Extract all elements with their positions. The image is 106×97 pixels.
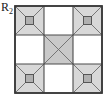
cell-middle-left-fill: [15, 35, 44, 64]
grid-diagram-svg: [0, 0, 106, 97]
cell-top-left-center-square: [26, 17, 34, 25]
cell-middle-right-fill: [73, 35, 102, 64]
cell-bottom-left-center-square: [26, 75, 34, 83]
figure-container: R2: [0, 0, 106, 97]
cell-bottom-center-fill: [44, 64, 73, 93]
cell-top-center-fill: [44, 6, 73, 35]
cell-top-right-center-square: [84, 17, 92, 25]
cell-bottom-right-center-square: [84, 75, 92, 83]
